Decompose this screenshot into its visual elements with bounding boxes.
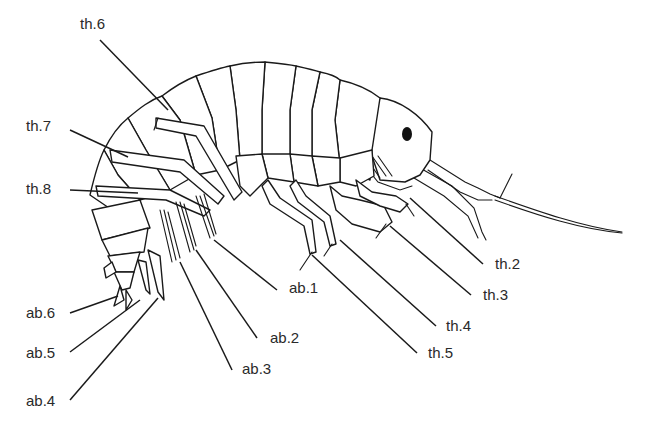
- label-th7: th.7: [26, 118, 51, 133]
- label-ab6: ab.6: [26, 305, 55, 320]
- leader-line-th5: [312, 255, 417, 353]
- eye: [402, 127, 412, 141]
- gnathopods: [330, 180, 414, 238]
- label-th3: th.3: [483, 287, 508, 302]
- label-th6: th.6: [80, 16, 105, 31]
- leader-line-ab2: [196, 250, 257, 338]
- leader-line-th2: [410, 198, 483, 264]
- label-th8: th.8: [26, 181, 51, 196]
- label-ab3: ab.3: [242, 361, 271, 376]
- label-th5: th.5: [428, 345, 453, 360]
- leader-line-th3: [390, 226, 471, 295]
- leader-line-th6: [100, 40, 168, 110]
- amphipod-illustration: [0, 0, 647, 432]
- head: [370, 98, 432, 182]
- antenna-1: [428, 160, 622, 233]
- label-ab1: ab.1: [289, 280, 318, 295]
- leader-line-ab5: [70, 300, 140, 352]
- antenna-2: [414, 168, 486, 240]
- amphipod-diagram: th.6 th.7 th.8 ab.6 ab.5 ab.4 ab.1 ab.2 …: [0, 0, 647, 432]
- walking-legs: [262, 180, 336, 270]
- label-ab2: ab.2: [270, 330, 299, 345]
- label-th2: th.2: [495, 256, 520, 271]
- label-ab5: ab.5: [26, 345, 55, 360]
- label-ab4: ab.4: [26, 393, 55, 408]
- coxal-plates: [236, 150, 374, 196]
- leader-line-ab6: [70, 296, 118, 313]
- label-th4: th.4: [446, 318, 471, 333]
- leader-line-ab3: [180, 262, 232, 370]
- leader-line-ab4: [70, 298, 158, 400]
- leader-line-ab1: [214, 240, 277, 290]
